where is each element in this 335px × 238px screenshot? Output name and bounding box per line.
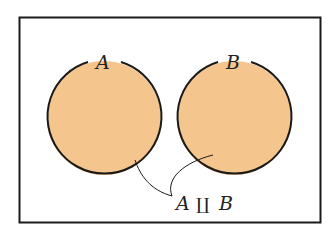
set-a-label: A bbox=[94, 51, 110, 73]
set-b-label: B bbox=[225, 51, 240, 73]
annotation-left: A bbox=[174, 192, 190, 214]
annotation-right: B bbox=[218, 192, 233, 214]
union-annotation: A ∐ B bbox=[174, 192, 233, 214]
venn-diagram: A B A ∐ B bbox=[0, 0, 335, 238]
coproduct-symbol: ∐ bbox=[196, 194, 210, 214]
set-b bbox=[177, 61, 292, 175]
pointer-line-a bbox=[135, 160, 172, 196]
set-a bbox=[47, 61, 162, 175]
